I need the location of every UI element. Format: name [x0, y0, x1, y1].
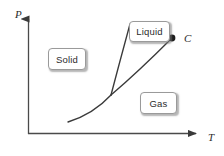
plot-canvas: [0, 0, 224, 156]
region-box-liquid: Liquid: [129, 21, 170, 42]
x-axis-label: T: [208, 132, 214, 143]
fusion-curve: [111, 24, 130, 95]
vaporization-curve: [111, 38, 172, 95]
region-box-gas: Gas: [140, 92, 177, 114]
region-box-solid: Solid: [48, 48, 86, 70]
phase-diagram-figure: P T C Solid Liquid Gas: [0, 0, 224, 156]
region-label-solid: Solid: [56, 54, 78, 65]
sublimation-curve: [68, 95, 111, 122]
y-axis-label: P: [15, 9, 22, 20]
region-label-liquid: Liquid: [136, 26, 163, 37]
critical-point-label: C: [184, 33, 191, 44]
region-label-gas: Gas: [149, 98, 167, 109]
